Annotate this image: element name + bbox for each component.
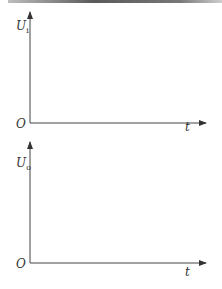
output-y-label: Uo [16, 157, 31, 172]
output-y-label-main: U [16, 156, 26, 170]
input-y-label: Ui [16, 20, 29, 35]
output-plot-axes [30, 142, 206, 263]
input-y-label-main: U [16, 19, 26, 33]
axes-canvas [0, 0, 222, 289]
input-origin-label: O [16, 118, 26, 130]
output-origin-label: O [16, 258, 26, 270]
input-x-label: t [185, 121, 190, 133]
input-plot-axes [30, 12, 206, 123]
output-x-label: t [185, 266, 190, 278]
input-y-label-sub: i [26, 26, 29, 35]
output-y-label-sub: o [26, 163, 31, 172]
